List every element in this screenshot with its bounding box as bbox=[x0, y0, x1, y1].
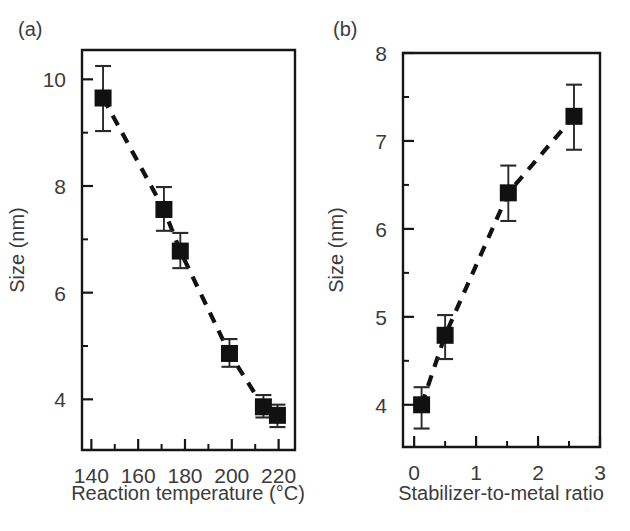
x-axis-label-b: Stabilizer-to-metal ratio bbox=[398, 482, 604, 504]
panel-letter-a: (a) bbox=[18, 18, 42, 40]
data-marker bbox=[269, 407, 286, 424]
y-tick-label: 4 bbox=[375, 394, 387, 417]
data-marker bbox=[565, 108, 582, 125]
y-tick-label: 10 bbox=[43, 68, 66, 91]
x-tick-label: 0 bbox=[408, 461, 420, 484]
figure-container: (a) 14016018020022046810 Reaction temper… bbox=[0, 0, 630, 531]
panel-b-svg: (b) 012345678 Stabilizer-to-metal ratio … bbox=[315, 0, 630, 531]
panel-b: (b) 012345678 Stabilizer-to-metal ratio … bbox=[315, 0, 630, 531]
x-tick-label: 3 bbox=[594, 461, 606, 484]
panel-a: (a) 14016018020022046810 Reaction temper… bbox=[0, 0, 315, 531]
axis-tick-labels-a: 14016018020022046810 bbox=[43, 68, 296, 487]
y-tick-label: 7 bbox=[375, 130, 387, 153]
error-bars-a bbox=[95, 66, 285, 427]
panel-a-svg: (a) 14016018020022046810 Reaction temper… bbox=[0, 0, 315, 531]
x-axis-label-a: Reaction temperature (°C) bbox=[71, 482, 305, 504]
panel-letter-b: (b) bbox=[333, 18, 357, 40]
data-marker bbox=[95, 90, 112, 107]
y-tick-label: 8 bbox=[375, 42, 387, 65]
y-axis-label-a: Size (nm) bbox=[6, 207, 28, 293]
y-tick-label: 6 bbox=[54, 282, 66, 305]
data-marker bbox=[155, 201, 172, 218]
y-tick-label: 8 bbox=[54, 175, 66, 198]
y-tick-label: 4 bbox=[54, 388, 66, 411]
x-tick-label: 1 bbox=[470, 461, 482, 484]
trend-line-a bbox=[103, 98, 277, 415]
data-markers-b bbox=[413, 108, 582, 413]
data-marker bbox=[413, 396, 430, 413]
x-tick-label: 2 bbox=[532, 461, 544, 484]
data-marker bbox=[221, 345, 238, 362]
y-tick-label: 5 bbox=[375, 306, 387, 329]
y-tick-label: 6 bbox=[375, 218, 387, 241]
data-markers-a bbox=[95, 90, 286, 424]
data-marker bbox=[437, 327, 454, 344]
data-marker bbox=[500, 184, 517, 201]
trend-line-b bbox=[422, 116, 574, 405]
y-axis-label-b: Size (nm) bbox=[325, 207, 347, 293]
data-marker bbox=[172, 243, 189, 260]
